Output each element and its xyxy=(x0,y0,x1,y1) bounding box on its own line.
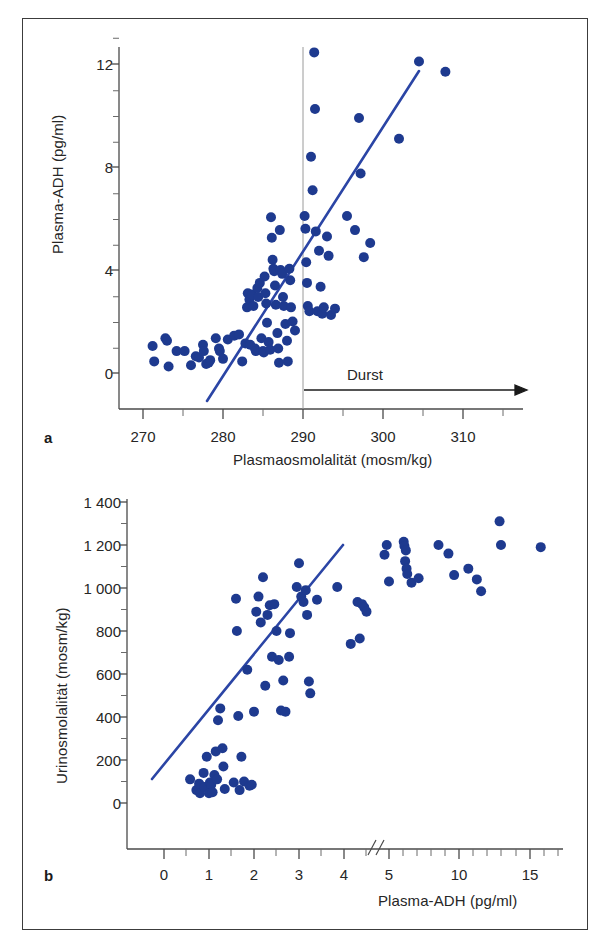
data-point xyxy=(148,341,158,351)
data-point xyxy=(180,346,190,356)
data-point xyxy=(440,67,450,77)
data-point xyxy=(300,224,310,234)
data-point xyxy=(472,574,482,584)
data-point xyxy=(283,356,293,366)
data-point xyxy=(332,582,342,592)
data-point xyxy=(380,550,390,560)
data-point xyxy=(414,56,424,66)
data-point xyxy=(213,715,223,725)
data-point xyxy=(164,362,174,372)
data-point xyxy=(536,542,546,552)
data-point xyxy=(272,328,282,338)
data-point xyxy=(186,360,196,370)
data-point xyxy=(202,752,212,762)
data-point xyxy=(251,607,261,617)
data-point xyxy=(316,282,326,292)
data-point xyxy=(236,752,246,762)
data-point xyxy=(288,317,298,327)
data-point xyxy=(263,610,273,620)
data-point xyxy=(212,774,222,784)
data-point xyxy=(282,336,292,346)
panel-b-data-points xyxy=(185,516,546,798)
data-point xyxy=(306,152,316,162)
data-point xyxy=(284,264,294,274)
data-point xyxy=(463,564,473,574)
data-point xyxy=(362,607,372,617)
data-point xyxy=(234,329,244,339)
data-point xyxy=(258,572,268,582)
data-point xyxy=(274,655,284,665)
data-point xyxy=(322,232,332,242)
panel-a-x-major-ticks xyxy=(143,409,463,419)
data-point xyxy=(311,226,321,236)
data-point xyxy=(162,336,172,346)
data-point xyxy=(247,780,257,790)
data-point xyxy=(301,257,311,267)
data-point xyxy=(302,610,312,620)
data-point xyxy=(310,104,320,114)
data-point xyxy=(324,251,334,261)
data-point xyxy=(242,665,252,675)
panel-b-x-minor-ticks xyxy=(186,849,558,856)
data-point xyxy=(237,356,247,366)
data-point xyxy=(185,774,195,784)
data-point xyxy=(305,688,315,698)
data-point xyxy=(199,768,209,778)
data-point xyxy=(268,255,278,265)
data-point xyxy=(434,540,444,550)
data-point xyxy=(299,597,309,607)
panel-a-durst-arrow xyxy=(304,385,527,395)
data-point xyxy=(260,271,270,281)
data-point xyxy=(294,558,304,568)
data-point xyxy=(382,540,392,550)
data-point xyxy=(342,211,352,221)
panel-b-y-minor-ticks xyxy=(121,524,127,782)
data-point xyxy=(215,703,225,713)
data-point xyxy=(309,47,319,57)
panel-a-data-points xyxy=(148,47,451,371)
data-point xyxy=(355,634,365,644)
data-point xyxy=(275,225,285,235)
data-point xyxy=(401,545,411,555)
data-point xyxy=(254,592,264,602)
data-point xyxy=(235,785,245,795)
data-point xyxy=(269,599,279,609)
data-point xyxy=(308,185,318,195)
data-point xyxy=(261,298,271,308)
panel-b-axis-break-icon xyxy=(368,840,384,855)
data-point xyxy=(354,113,364,123)
data-point xyxy=(302,278,312,288)
data-point xyxy=(290,326,300,336)
data-point xyxy=(278,675,288,685)
data-point xyxy=(350,225,360,235)
data-point xyxy=(300,211,310,221)
panel-a-regression-line xyxy=(207,71,419,401)
panel-a-y-major-ticks xyxy=(111,64,119,373)
data-point xyxy=(359,252,369,262)
data-point xyxy=(285,628,295,638)
panel-b: Urinosmolalität (mosm/kg) Plasma-ADH (pg… xyxy=(23,474,589,931)
data-point xyxy=(233,711,243,721)
panel-a-y-minor-ticks xyxy=(113,38,119,348)
data-point xyxy=(281,707,291,717)
data-point xyxy=(285,275,295,285)
data-point xyxy=(495,516,505,526)
data-point xyxy=(218,354,228,364)
data-point xyxy=(218,761,228,771)
data-point xyxy=(319,302,329,312)
data-point xyxy=(211,333,221,343)
data-point xyxy=(149,356,159,366)
data-point xyxy=(218,743,228,753)
data-point xyxy=(205,355,215,365)
data-point xyxy=(266,212,276,222)
panel-b-plot xyxy=(23,474,589,931)
data-point xyxy=(260,288,270,298)
data-point xyxy=(260,681,270,691)
data-point xyxy=(232,626,242,636)
data-point xyxy=(394,134,404,144)
data-point xyxy=(231,594,241,604)
data-point xyxy=(249,707,259,717)
data-point xyxy=(443,549,453,559)
data-point xyxy=(272,626,282,636)
panel-b-x-major-ticks xyxy=(164,849,530,859)
